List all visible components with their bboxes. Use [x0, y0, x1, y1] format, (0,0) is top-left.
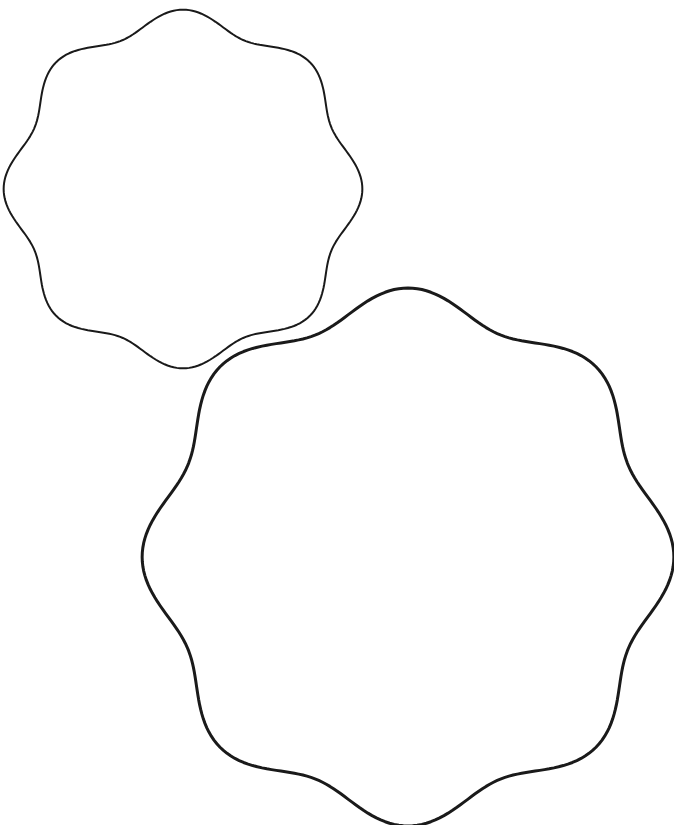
large-wavy-octagon [142, 288, 674, 825]
small-wavy-octagon [4, 10, 363, 369]
drawing-canvas [0, 0, 674, 825]
